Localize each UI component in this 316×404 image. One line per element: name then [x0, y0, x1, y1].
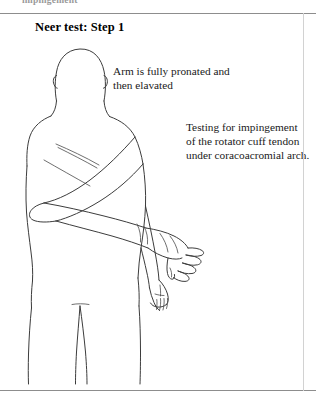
neer-test-figure [0, 0, 316, 404]
annotation-purpose-line-1: Testing for impingement [186, 120, 316, 134]
border-right [303, 13, 304, 391]
annotation-purpose-line-3: under coracoacromial arch. [186, 148, 316, 162]
annotation-arm-position-line-1: Arm is fully pronated and [113, 64, 273, 78]
annotation-purpose: Testing for impingement of the rotator c… [186, 120, 316, 163]
annotation-arm-position-line-2: then elavated [113, 78, 273, 92]
annotation-arm-position: Arm is fully pronated and then elavated [113, 64, 273, 92]
rule-bottom [0, 390, 316, 391]
annotation-purpose-line-2: of the rotator cuff tendon [186, 134, 316, 148]
illustration-page: impingement Neer test: Step 1 [0, 0, 316, 404]
